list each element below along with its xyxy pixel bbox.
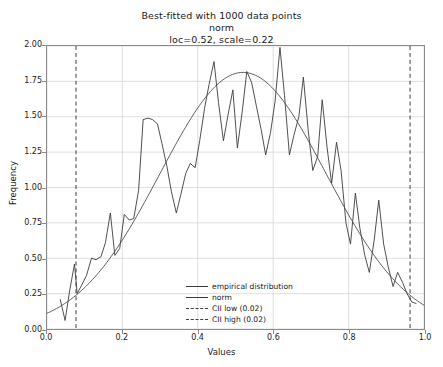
x-tick-label: 0.6 [253, 333, 293, 342]
x-axis-label: Values [0, 347, 443, 357]
y-axis-label: Frequency [8, 143, 18, 223]
y-tick-label: 1.75 [8, 76, 42, 85]
legend-item[interactable]: CII low (0.02) [186, 303, 306, 314]
legend-item[interactable]: empirical distribution [186, 281, 306, 292]
x-tick-label: 0.2 [102, 333, 142, 342]
x-tick-label: 0.8 [329, 333, 369, 342]
chart-legend: empirical distributionnormCII low (0.02)… [186, 281, 306, 325]
legend-label: CII low (0.02) [208, 304, 262, 313]
legend-item[interactable]: norm [186, 292, 306, 303]
x-tick-mark [122, 330, 123, 334]
x-tick-label: 1.0 [405, 333, 443, 342]
x-tick-label: 0.0 [26, 333, 66, 342]
legend-item[interactable]: CII high (0.02) [186, 314, 306, 325]
y-tick-label: 1.50 [8, 111, 42, 120]
legend-swatch-solid-line-icon [186, 281, 208, 292]
legend-label: CII high (0.02) [208, 315, 266, 324]
x-tick-label: 0.4 [178, 333, 218, 342]
legend-label: norm [208, 293, 232, 302]
legend-swatch-dashed-line-icon [186, 303, 208, 314]
legend-swatch-dashed-line-icon [186, 314, 208, 325]
chart-title-block: Best-fitted with 1000 data points norm l… [0, 10, 443, 46]
legend-swatch-solid-line-icon [186, 292, 208, 303]
x-tick-mark [349, 330, 350, 334]
y-tick-label: 2.00 [8, 40, 42, 49]
x-tick-mark [198, 330, 199, 334]
x-tick-mark [273, 330, 274, 334]
y-tick-label: 0.50 [8, 254, 42, 263]
y-tick-label: 0.25 [8, 289, 42, 298]
chart-subtitle: norm [0, 22, 443, 34]
x-tick-mark [425, 330, 426, 334]
legend-label: empirical distribution [208, 282, 293, 291]
chart-title: Best-fitted with 1000 data points [0, 10, 443, 22]
figure-canvas: Best-fitted with 1000 data points norm l… [0, 0, 443, 367]
x-tick-mark [46, 330, 47, 334]
